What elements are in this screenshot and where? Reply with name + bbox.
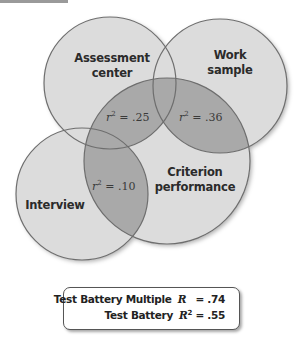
summary-box: Test Battery MultipleR = .74 Test Batter… [63,287,240,330]
criterion-performance-label: Criterion performance [150,165,240,195]
interview-label: Interview [20,198,90,213]
venn-diagram [0,0,299,280]
r2-work-sample-label: r2 = .36 [179,110,222,124]
r2-interview-label: r2 = .10 [92,179,135,193]
work-sample-label: Work sample [200,48,260,78]
multiple-r-row: Test Battery MultipleR = .74 [54,293,225,305]
r2-assessment-label: r2 = .25 [106,110,149,124]
assessment-center-label: Assessment center [62,51,162,81]
r-squared-row: Test BatteryR2 = .55 [105,309,225,321]
